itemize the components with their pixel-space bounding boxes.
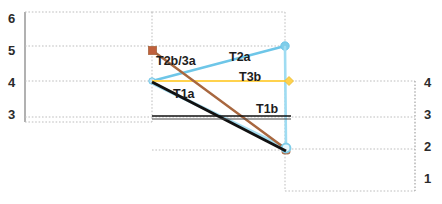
right-axis-tick-4: 4	[424, 76, 431, 89]
left-axis-tick-6: 6	[8, 12, 15, 25]
left-axis-tick-5: 5	[8, 44, 15, 57]
series-label-T1b: T1b	[256, 103, 278, 116]
series-T2b-descend-line	[285, 47, 286, 148]
series-T2b-descend	[285, 47, 286, 148]
series-label-T2b3a: T2b/3a	[156, 55, 196, 68]
right-axis-tick-3: 3	[424, 108, 431, 121]
left-axis-tick-3: 3	[8, 108, 15, 121]
chart-plot-area	[0, 0, 442, 204]
series-label-T2a: T2a	[229, 51, 251, 64]
series-label-T3b: T3b	[239, 71, 261, 84]
series-label-T1a: T1a	[173, 88, 195, 101]
right-panel-grid	[285, 81, 415, 191]
left-axis-tick-4: 4	[8, 76, 15, 89]
right-axis-tick-1: 1	[424, 172, 431, 185]
chart-container: 6 5 4 3 4 3 2 1 T2b/3a T2a T3b T1a T1b	[0, 0, 442, 204]
left-panel-grid	[25, 12, 152, 122]
right-axis-tick-2: 2	[424, 140, 431, 153]
series-T3b	[152, 77, 294, 86]
